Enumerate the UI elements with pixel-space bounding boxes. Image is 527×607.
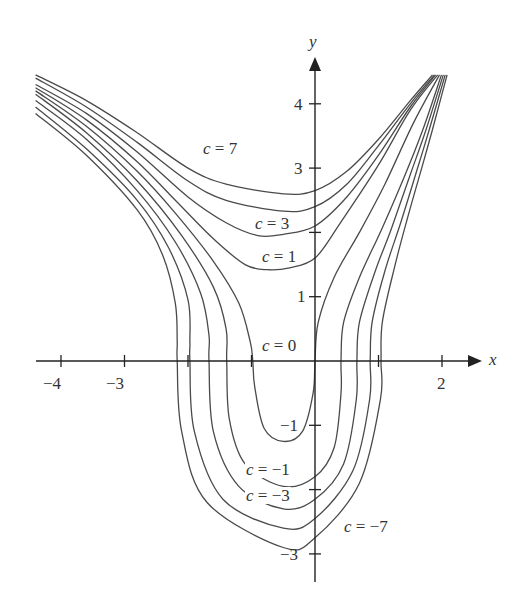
solution-curve	[36, 75, 440, 442]
x-axis-label: x	[489, 351, 497, 368]
x-tick-label-neg3: −3	[106, 375, 124, 392]
x-tick-label-neg4: −4	[43, 375, 61, 392]
y-tick-label-neg1: −1	[280, 417, 298, 434]
curve-label-cm3: c = −3	[245, 487, 291, 504]
curve-label-c7: c = 7	[203, 140, 237, 157]
curve-family	[36, 75, 448, 550]
y-tick-label-neg3: −3	[280, 546, 298, 563]
solution-curve	[36, 75, 433, 194]
curve-label-c0: c = 0	[262, 337, 296, 354]
solution-curve	[36, 75, 438, 270]
y-axis-label: y	[309, 33, 317, 50]
y-axis-arrow-icon	[309, 57, 321, 71]
x-axis	[36, 355, 482, 367]
curve-label-c3: c = 3	[254, 215, 290, 232]
x-tick-label-2: 2	[437, 375, 446, 392]
curve-label-c1: c = 1	[261, 248, 297, 265]
y-tick-label-3: 3	[294, 160, 303, 177]
solution-curves-plot	[0, 0, 527, 607]
y-tick-label-4: 4	[294, 96, 303, 113]
y-tick-label-1: 1	[297, 288, 306, 305]
curve-label-cm7: c = −7	[344, 518, 388, 535]
x-axis-arrow-icon	[468, 355, 482, 367]
curve-label-cm1: c = −1	[245, 461, 291, 478]
solution-curve	[36, 75, 446, 529]
